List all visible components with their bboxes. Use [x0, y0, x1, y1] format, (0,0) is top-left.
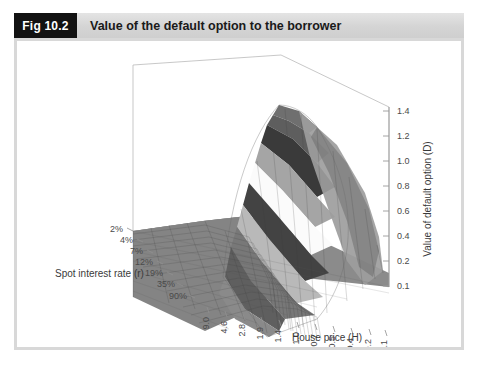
figure-page: Fig 10.2 Value of the default option to …	[0, 0, 478, 367]
z-tick-2: 1.0	[397, 156, 410, 166]
y-tick-5: 35%	[157, 279, 175, 289]
y-axis-title: Spot interest rate (r)	[55, 268, 144, 279]
surface-chart: 1.4 1.2 1.0 0.8 0.6 0.4 0.2 0.1 Value of…	[17, 41, 461, 347]
z-axis-title: Value of default option (D)	[422, 141, 433, 256]
z-tick-1: 1.2	[397, 131, 410, 141]
x-tick-0: 9.0	[201, 317, 211, 330]
figure-number-label: Fig 10.2	[22, 19, 68, 33]
surface-mesh	[133, 105, 389, 339]
x-tick-9: 0.2	[363, 339, 373, 347]
x-tick-4: 1.4	[273, 330, 283, 343]
y-tick-0: 2%	[110, 224, 123, 234]
z-axis: 1.4 1.2 1.0 0.8 0.6 0.4 0.2 0.1 Value of…	[383, 106, 433, 291]
y-tick-1: 4%	[120, 235, 133, 245]
z-tick-7: 0.1	[397, 281, 410, 291]
x-tick-1: 4.6	[219, 321, 229, 334]
z-tick-4: 0.6	[397, 206, 410, 216]
y-tick-6: 90%	[169, 291, 187, 301]
figure-number-box: Fig 10.2	[14, 13, 77, 38]
figure-title: Value of the default option to the borro…	[90, 13, 341, 38]
figure-plate: 1.4 1.2 1.0 0.8 0.6 0.4 0.2 0.1 Value of…	[14, 38, 464, 350]
z-tick-6: 0.2	[397, 256, 410, 266]
y-tick-2: 7%	[130, 246, 143, 256]
y-tick-4: 19%	[145, 268, 163, 278]
figure-header-bar: Fig 10.2 Value of the default option to …	[14, 13, 464, 38]
surface-chart-svg: 1.4 1.2 1.0 0.8 0.6 0.4 0.2 0.1 Value of…	[17, 41, 461, 347]
x-tick-2: 2.8	[237, 324, 247, 337]
z-tick-0: 1.4	[397, 106, 410, 116]
y-tick-3: 12%	[135, 257, 153, 267]
x-tick-10: 0.1	[379, 340, 389, 347]
x-tick-3: 1.9	[255, 327, 265, 340]
z-tick-3: 0.8	[397, 181, 410, 191]
z-tick-5: 0.4	[397, 231, 410, 241]
x-axis-title: House price (H)	[292, 332, 362, 343]
